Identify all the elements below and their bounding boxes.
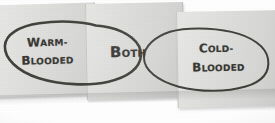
venn-diagram-photo: WARM- BLOODED BOTH COLD- BLOODED	[0, 0, 275, 123]
label-warm-line-1: WARM-	[27, 32, 74, 50]
label-warm-line-2: BLOODED	[21, 50, 74, 68]
label-warm-blooded: WARM- BLOODED	[27, 32, 74, 68]
label-cold-blooded: COLD- BLOODED	[199, 39, 245, 76]
label-cold-line-2: BLOODED	[192, 57, 245, 75]
label-both: BOTH	[110, 44, 146, 61]
photo-surface: WARM- BLOODED BOTH COLD- BLOODED	[0, 0, 275, 123]
label-cold-line-1: COLD-	[199, 39, 245, 57]
label-both-line-1: BOTH	[110, 44, 146, 61]
